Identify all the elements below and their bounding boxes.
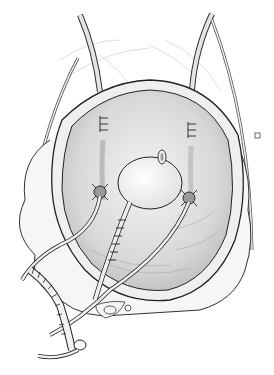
stoma-ring [74,340,86,350]
clip-marker [255,133,260,138]
surgical-illustration [0,0,274,375]
catheter-balloon [118,157,182,209]
illustration-canvas [0,0,274,375]
